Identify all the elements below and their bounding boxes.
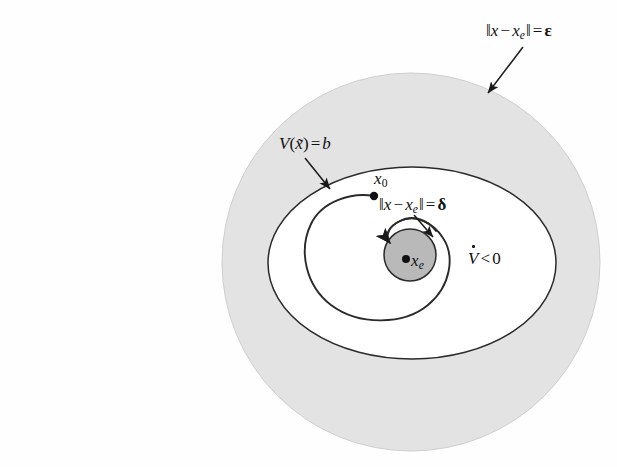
vdot-base: V xyxy=(468,249,478,268)
equilibrium-label: xe xyxy=(411,252,424,272)
v-label-equals: = xyxy=(309,134,323,153)
v-label-value-b: b xyxy=(322,134,331,153)
epsilon-label-minus: − xyxy=(498,21,512,40)
x0-subscript: 0 xyxy=(382,177,388,190)
epsilon-label-var-xe: x xyxy=(512,21,520,40)
xe-subscript: e xyxy=(419,259,424,272)
diagram-canvas xyxy=(0,0,617,467)
lyapunov-function-symbol: V xyxy=(279,134,289,153)
xe-base: x xyxy=(411,251,419,270)
equilibrium-point xyxy=(402,255,410,263)
lyapunov-level-set-label: V(x̃)=b xyxy=(279,135,331,152)
v-label-paren-close: ) xyxy=(303,134,309,153)
delta-label-equals: = xyxy=(424,195,438,214)
initial-state-label: x0 xyxy=(374,170,388,190)
delta-norm-close-bar: ‖ xyxy=(418,195,424,214)
vdot-relation: < xyxy=(478,249,492,268)
vdot-symbol: V xyxy=(468,250,478,267)
delta-ball-region xyxy=(384,229,436,281)
initial-state-point xyxy=(370,192,378,200)
delta-boundary-label: ‖x−xe‖=δ xyxy=(378,196,446,216)
vdot-value: 0 xyxy=(492,249,501,268)
v-label-argument: x̃ xyxy=(295,134,303,153)
epsilon-symbol: ε xyxy=(544,21,551,40)
delta-label-minus: − xyxy=(391,195,405,214)
figure-root: ‖x−xe‖=ε V(x̃)=b x0 ‖x−xe‖=δ xe V<0 xyxy=(0,0,617,467)
vdot-negative-label: V<0 xyxy=(468,250,501,267)
vdot-overdot-icon xyxy=(472,245,475,248)
epsilon-boundary-label: ‖x−xe‖=ε xyxy=(485,22,552,42)
epsilon-annotation-arrow xyxy=(488,47,523,93)
delta-label-var-xe: x xyxy=(405,195,413,214)
epsilon-label-equals: = xyxy=(531,21,545,40)
x0-base: x xyxy=(374,169,382,188)
norm-close-bar: ‖ xyxy=(525,21,531,40)
delta-symbol: δ xyxy=(437,195,446,214)
